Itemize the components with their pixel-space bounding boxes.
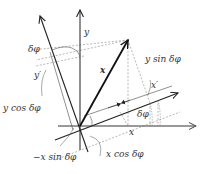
label-y-prime: y′ (34, 71, 41, 80)
rotation-diagram (0, 0, 209, 174)
y-prime-guide (50, 52, 73, 130)
label-x-axis: x (129, 128, 134, 137)
leader-lines (42, 70, 151, 156)
angle-arc-top (52, 47, 80, 56)
label-delta-phi-right: δφ (137, 110, 149, 119)
length-marker-b (122, 100, 130, 103)
label-y-cos: y cos δφ (3, 104, 41, 113)
label-y-sin: y sin δφ (145, 55, 181, 64)
label-vector-x: x (100, 66, 105, 75)
x-prime-axis (55, 93, 178, 140)
label-x-cos: x cos δφ (106, 150, 144, 159)
label-delta-phi-top: δφ (28, 45, 40, 54)
angle-arc-origin (90, 116, 92, 126)
y-prime-axis (40, 16, 88, 152)
label-y-axis: y (84, 28, 89, 37)
label-x-prime: x′ (151, 81, 158, 90)
label-neg-x-sin: −x sin δφ (33, 153, 76, 162)
length-marker-a (108, 104, 120, 108)
angle-arcs (150, 100, 160, 126)
